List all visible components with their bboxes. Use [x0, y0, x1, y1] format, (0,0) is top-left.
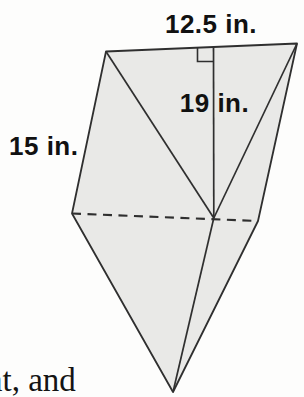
- geometry-figure: 12.5 in. 19 in. 15 in. nt, and: [0, 0, 304, 397]
- height-dimension-label: 19 in.: [180, 88, 249, 118]
- left-edge-dimension-label: 15 in.: [9, 131, 78, 161]
- scanned-textbook-page: 12.5 in. 19 in. 15 in. nt, and: [0, 0, 304, 397]
- top-edge-dimension-label: 12.5 in.: [165, 9, 257, 39]
- page-body-text-fragment: nt, and: [0, 362, 76, 397]
